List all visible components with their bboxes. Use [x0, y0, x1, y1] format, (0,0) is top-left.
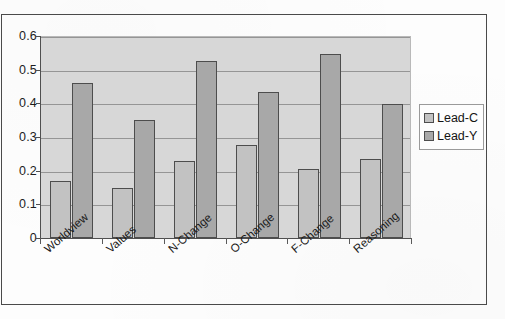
x-axis-tick-mark — [40, 238, 41, 244]
y-axis-tick-mark — [36, 238, 40, 239]
y-axis-tick-label: 0.4 — [3, 97, 37, 110]
x-axis-tick-mark — [287, 238, 288, 244]
x-axis-tick-mark — [349, 238, 350, 244]
y-axis-tick-labels: 00.10.20.30.40.50.6 — [0, 0, 37, 319]
y-axis-tick-label: 0 — [3, 232, 37, 245]
y-axis-tick-label: 0.1 — [3, 198, 37, 211]
x-axis-tick-mark — [411, 238, 412, 244]
bar — [134, 120, 155, 238]
y-axis-tick-mark — [36, 36, 40, 37]
bar-chart: 00.10.20.30.40.50.6 WorldviewValuesN-Cha… — [0, 0, 505, 319]
legend-item: Lead-C — [424, 109, 478, 127]
y-axis-tick-label: 0.6 — [3, 30, 37, 43]
y-axis-tick-mark — [36, 137, 40, 138]
bar — [320, 54, 341, 238]
legend-item: Lead-Y — [424, 127, 478, 145]
y-axis-tick-mark — [36, 70, 40, 71]
legend-label: Lead-Y — [437, 130, 477, 143]
x-axis-tick-mark — [164, 238, 165, 244]
y-axis-tick-mark — [36, 171, 40, 172]
legend-swatch-icon — [424, 131, 434, 141]
y-axis-tick-label: 0.5 — [3, 63, 37, 76]
bars-layer — [41, 36, 411, 238]
x-axis-tick-mark — [226, 238, 227, 244]
chart-legend: Lead-CLead-Y — [419, 104, 484, 150]
y-axis-tick-mark — [36, 103, 40, 104]
x-axis-tick-mark — [102, 238, 103, 244]
scanned-page: 00.10.20.30.40.50.6 WorldviewValuesN-Cha… — [0, 0, 505, 319]
legend-label: Lead-C — [437, 112, 478, 125]
legend-swatch-icon — [424, 113, 434, 123]
y-axis-tick-label: 0.3 — [3, 131, 37, 144]
y-axis-tick-mark — [36, 204, 40, 205]
y-axis-tick-label: 0.2 — [3, 164, 37, 177]
